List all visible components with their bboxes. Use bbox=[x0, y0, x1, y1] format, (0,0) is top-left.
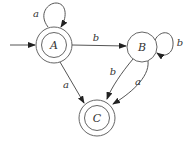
loop-b bbox=[155, 33, 173, 55]
loop-b-label: b bbox=[177, 37, 183, 48]
edge-b-c-2 bbox=[113, 61, 148, 104]
loop-a bbox=[44, 3, 65, 27]
state-b[interactable]: B bbox=[127, 32, 157, 62]
state-c-label: C bbox=[93, 112, 102, 125]
state-a[interactable]: A bbox=[36, 27, 72, 63]
state-b-label: B bbox=[137, 41, 146, 54]
edge-a-b bbox=[72, 45, 126, 46]
state-a-label: A bbox=[49, 39, 58, 52]
edge-b-c-2-label: a bbox=[135, 76, 141, 87]
loop-a-label: a bbox=[33, 8, 39, 19]
edge-a-b-label: b bbox=[93, 32, 99, 43]
edge-a-c-label: a bbox=[63, 79, 69, 90]
state-c[interactable]: C bbox=[79, 100, 115, 136]
edge-b-c-1-label: b bbox=[110, 66, 116, 77]
automaton-diagram: A a b B b a b a C bbox=[0, 0, 186, 142]
